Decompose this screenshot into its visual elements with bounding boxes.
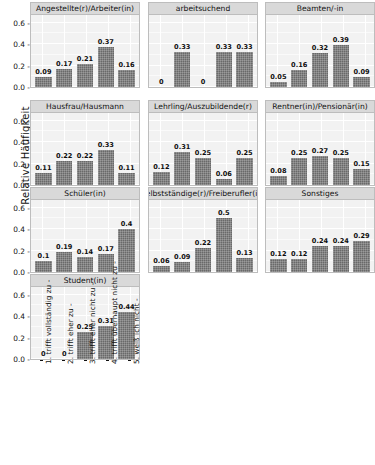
bar-value-label: 0.33 [213, 43, 234, 51]
bar[interactable] [270, 82, 286, 87]
bar[interactable] [312, 246, 328, 272]
bar[interactable] [353, 77, 369, 87]
bar-slot: 0.12 [268, 200, 289, 272]
bar[interactable] [195, 248, 211, 272]
bar[interactable] [77, 257, 93, 272]
bar[interactable] [174, 262, 190, 272]
plot-area: 0.080.250.270.250.15 [265, 113, 375, 186]
bar-value-label: 0.16 [116, 61, 137, 69]
panel-strip-label: Lehrling/Auszubildende(r) [148, 100, 258, 113]
bar-slot: 0.14 [75, 200, 96, 272]
bar[interactable] [35, 77, 51, 87]
bar[interactable] [291, 158, 307, 185]
bar[interactable] [77, 64, 93, 87]
y-axis-tick-label: 0.2 - [0, 247, 30, 256]
bar-value-label: 0.33 [234, 43, 255, 51]
bar-value-label: 0.12 [151, 163, 172, 171]
panel-rentner-in-pension-r-in: Rentner(in)/Pensionär(in)0.080.250.270.2… [265, 100, 375, 186]
bar[interactable] [216, 52, 232, 87]
bar-slot: 0.33 [95, 113, 116, 185]
bar[interactable] [236, 258, 252, 272]
bar-slot: 0.05 [268, 15, 289, 87]
panel-strip-label: Sonstiges [265, 187, 375, 200]
panel-hausfrau-hausmann: Hausfrau/Hausmann0.110.220.220.330.11 [30, 100, 140, 186]
bar-slot: 0.22 [193, 200, 214, 272]
y-axis-tick-label: 0.6 - [0, 117, 30, 126]
bar-slot: 0.15 [351, 113, 372, 185]
bar[interactable] [174, 52, 190, 87]
bar-value-label: 0.11 [33, 164, 54, 172]
bar-slot: 0.12 [289, 200, 310, 272]
x-axis-tick-mark [106, 360, 109, 361]
bar-value-label: 0.22 [54, 152, 75, 160]
bar-slot: 0.11 [33, 113, 54, 185]
facet-bar-chart: Relative Häufigkeit Angestellte(r)/Arbei… [0, 0, 375, 465]
bar[interactable] [270, 259, 286, 272]
panel-sch-ler-in: Schüler(in)0.10.190.140.170.4 [30, 187, 140, 273]
bar-slot: 0.12 [151, 113, 172, 185]
bar-slot: 0.22 [54, 113, 75, 185]
bar-value-label: 0.22 [75, 152, 96, 160]
bar-slot: 0.25 [330, 113, 351, 185]
bar[interactable] [98, 150, 114, 185]
bar-value-label: 0.33 [172, 43, 193, 51]
bar[interactable] [353, 169, 369, 185]
x-axis-tick-mark [84, 360, 87, 361]
bar-slot: 0.09 [172, 200, 193, 272]
bar[interactable] [333, 45, 349, 87]
bar-value-label: 0.25 [289, 149, 310, 157]
bar[interactable] [312, 156, 328, 185]
x-axis-tick-mark [128, 360, 131, 361]
bar[interactable] [98, 47, 114, 87]
y-axis-tick-label: 0.4 - [0, 40, 30, 49]
bar-series: 0.120.120.240.240.29 [266, 200, 374, 272]
bar[interactable] [291, 259, 307, 272]
plot-area: 0.090.170.210.370.16 [30, 15, 140, 88]
bar-slot: 0.13 [234, 200, 255, 272]
bar[interactable] [236, 52, 252, 87]
bar-value-label: 0.06 [151, 257, 172, 265]
bar[interactable] [353, 241, 369, 272]
bar-slot: 0 [193, 15, 214, 87]
bar[interactable] [236, 158, 252, 185]
bar[interactable] [35, 173, 51, 185]
bar[interactable] [291, 70, 307, 87]
bar[interactable] [118, 173, 134, 185]
bar[interactable] [56, 69, 72, 87]
bar[interactable] [270, 176, 286, 185]
bar-value-label: 0.25 [234, 149, 255, 157]
bar[interactable] [77, 161, 93, 185]
bar[interactable] [153, 172, 169, 185]
bar[interactable] [195, 158, 211, 185]
y-axis-tick-label: 0.0 - [0, 268, 30, 277]
bar[interactable] [333, 246, 349, 272]
bar[interactable] [174, 152, 190, 185]
bar-slot: 0.5 [213, 200, 234, 272]
bar[interactable] [216, 218, 232, 272]
panel-strip-label: Angestellte(r)/Arbeiter(in) [30, 2, 140, 15]
bar[interactable] [56, 161, 72, 185]
y-axis-tick-label: 0.6 - [0, 19, 30, 28]
bar[interactable] [56, 252, 72, 272]
bar[interactable] [333, 158, 349, 185]
bar[interactable] [312, 53, 328, 87]
bar-slot: 0.24 [310, 200, 331, 272]
y-axis-tick-label: 0.4 - [0, 138, 30, 147]
bar-slot: 0.33 [213, 15, 234, 87]
bar[interactable] [118, 70, 134, 87]
bar-slot: 0.25 [234, 113, 255, 185]
bar[interactable] [118, 229, 134, 272]
x-axis-tick-label: 5. weiß ich nicht - [132, 298, 141, 364]
bar[interactable] [216, 179, 232, 185]
bar-value-label: 0.09 [351, 68, 372, 76]
bar-slot: 0 [151, 15, 172, 87]
bar-slot: 0.17 [54, 15, 75, 87]
plot-area: 0.050.160.320.390.09 [265, 15, 375, 88]
bar-value-label: 0.09 [33, 68, 54, 76]
y-axis-tick-label: 0.0 - [0, 355, 30, 364]
bar-value-label: 0.05 [268, 73, 289, 81]
bar-value-label: 0.09 [172, 253, 193, 261]
bar[interactable] [35, 261, 51, 272]
bar-value-label: 0.1 [33, 252, 54, 260]
bar[interactable] [153, 266, 169, 272]
